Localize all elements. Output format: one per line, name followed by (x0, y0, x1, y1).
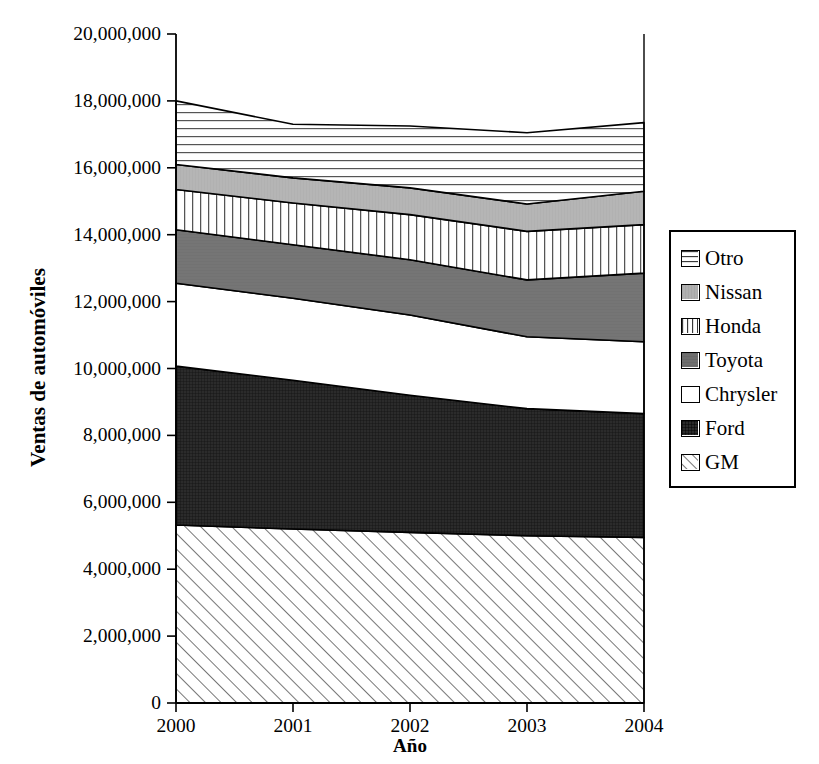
legend-item-ford[interactable]: Ford (681, 411, 794, 445)
y-tick-label-4: 8,000,000 (1, 425, 161, 445)
legend-item-nissan[interactable]: Nissan (681, 275, 794, 309)
x-axis-title: Año (176, 735, 644, 757)
x-tick-label-1: 2001 (248, 716, 338, 736)
legend-item-gm[interactable]: GM (681, 445, 794, 479)
x-tick-label-4: 2004 (599, 716, 689, 736)
legend-label-otro: Otro (705, 248, 744, 269)
y-tick-label-6: 12,000,000 (1, 292, 161, 312)
y-tick-label-8: 16,000,000 (1, 158, 161, 178)
legend-label-toyota: Toyota (705, 350, 763, 371)
x-tick-label-2: 2002 (365, 716, 455, 736)
legend-label-chrysler: Chrysler (705, 384, 777, 405)
legend-item-toyota[interactable]: Toyota (681, 343, 794, 377)
legend-swatch-icon-chrysler (681, 386, 700, 403)
y-tick-label-0: 0 (1, 693, 161, 713)
stacked-area-chart: Ventas de automóviles Año 02,000,0004,00… (0, 0, 819, 764)
y-tick-label-1: 2,000,000 (1, 626, 161, 646)
y-tick-label-9: 18,000,000 (1, 91, 161, 111)
legend-label-gm: GM (705, 452, 739, 473)
y-tick-label-7: 14,000,000 (1, 225, 161, 245)
legend-item-honda[interactable]: Honda (681, 309, 794, 343)
legend-swatch-icon-gm (681, 454, 700, 471)
y-tick-label-3: 6,000,000 (1, 492, 161, 512)
y-tick-label-5: 10,000,000 (1, 359, 161, 379)
legend-label-nissan: Nissan (705, 282, 762, 303)
legend-swatch-icon-ford (681, 420, 700, 437)
y-tick-label-2: 4,000,000 (1, 559, 161, 579)
area-series-group (176, 101, 644, 703)
y-tick-label-10: 20,000,000 (1, 24, 161, 44)
area-series-gm (176, 525, 644, 703)
legend-swatch-icon-otro (681, 250, 700, 267)
legend-swatch-icon-honda (681, 318, 700, 335)
x-tick-label-3: 2003 (482, 716, 572, 736)
legend-item-otro[interactable]: Otro (681, 241, 794, 275)
legend-label-ford: Ford (705, 418, 745, 439)
chart-legend: OtroNissanHondaToyotaChryslerFordGM (669, 230, 796, 488)
legend-label-honda: Honda (705, 316, 761, 337)
legend-swatch-icon-nissan (681, 284, 700, 301)
x-tick-label-0: 2000 (131, 716, 221, 736)
legend-swatch-icon-toyota (681, 352, 700, 369)
legend-item-chrysler[interactable]: Chrysler (681, 377, 794, 411)
